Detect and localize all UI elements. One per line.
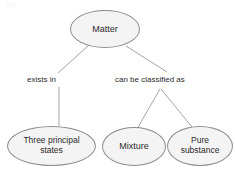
edge-classified-as-to-pure-substance [161,89,192,127]
concept-map-canvas: Matter Three principal states Mixture Pu… [0,0,235,170]
node-matter-label: Matter [88,24,122,34]
node-pure-substance-label: Pure substance [177,136,224,155]
node-mixture[interactable]: Mixture [102,127,166,166]
edge-classified-as-to-mixture [137,89,160,129]
edge-label-can-be-classified-as: can be classified as [115,76,185,84]
scan-artifact [6,1,16,8]
node-pure-substance[interactable]: Pure substance [167,126,233,166]
node-three-principal-states[interactable]: Three principal states [7,126,96,166]
node-mixture-label: Mixture [115,141,153,151]
node-three-principal-states-label: Three principal states [19,136,83,155]
node-matter[interactable]: Matter [70,10,140,48]
edge-label-exists-in: exists in [27,76,56,84]
edge-matter-to-classified-as [126,46,167,72]
edge-matter-to-exists-in [58,45,89,73]
